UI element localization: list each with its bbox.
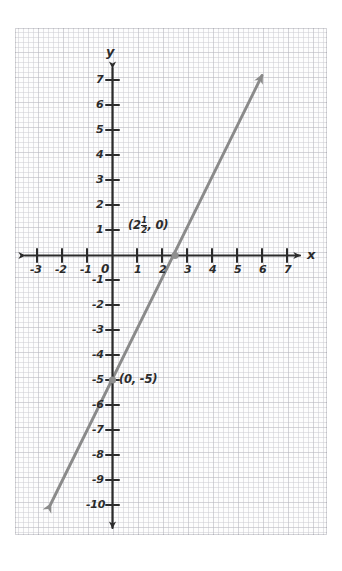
x-tick-label--1: -1 — [80, 264, 92, 275]
y-tick-label-4: 4 — [96, 149, 103, 160]
x-axis-label: x — [307, 248, 315, 261]
y-tick-label-7: 7 — [96, 74, 103, 85]
y-tick-label-1: 1 — [96, 224, 103, 235]
y-tick-label--2: -2 — [92, 299, 104, 310]
x-intercept-annotation: (212, 0) — [128, 216, 168, 234]
plotted-line — [51, 76, 263, 505]
x-tick-label--2: -2 — [55, 264, 67, 275]
x-tick-label-3: 3 — [184, 264, 191, 275]
y-intercept-annotation: (0, -5) — [119, 374, 157, 386]
mixed-fraction: 12 — [141, 216, 147, 234]
x-tick-label-4: 4 — [209, 264, 216, 275]
coordinate-plane — [0, 0, 342, 571]
fraction-numerator: 1 — [141, 216, 147, 225]
x-intercept-suffix: , 0) — [148, 218, 169, 232]
y-tick-label-6: 6 — [96, 99, 103, 110]
x-intercept-prefix: (2 — [128, 218, 141, 232]
y-tick-label--6: -6 — [92, 399, 104, 410]
x-tick-label-2: 2 — [159, 264, 166, 275]
x-intercept-marker — [171, 252, 178, 259]
x-tick-label-7: 7 — [284, 264, 291, 275]
y-tick-label--9: -9 — [92, 474, 104, 485]
y-tick-label--5: -5 — [92, 374, 104, 385]
x-tick-label-6: 6 — [259, 264, 266, 275]
x-axis — [25, 249, 300, 262]
y-tick-label--10: -10 — [86, 499, 105, 510]
x-tick-label--3: -3 — [30, 264, 42, 275]
y-tick-label--7: -7 — [92, 424, 104, 435]
fraction-denominator: 2 — [141, 225, 147, 235]
y-axis-label: y — [106, 45, 114, 58]
x-tick-label-1: 1 — [134, 264, 141, 275]
y-tick-label--1: -1 — [92, 274, 104, 285]
y-intercept-marker — [109, 376, 116, 383]
y-tick-label--3: -3 — [92, 324, 104, 335]
y-axis — [106, 68, 119, 528]
y-tick-label-5: 5 — [96, 124, 103, 135]
x-tick-label-5: 5 — [234, 264, 241, 275]
y-tick-label-2: 2 — [96, 199, 103, 210]
y-tick-label-3: 3 — [96, 174, 103, 185]
y-tick-label--4: -4 — [92, 349, 104, 360]
graph-figure: -3 -2 -1 0 1 2 3 4 5 6 7 7 6 5 4 3 2 1 -… — [0, 0, 342, 571]
y-tick-label--8: -8 — [92, 449, 104, 460]
